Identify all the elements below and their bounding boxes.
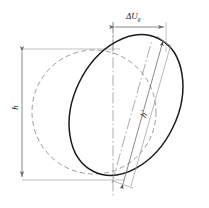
label-delta-u-symbol: ΔU <box>126 11 138 21</box>
dimension-h-prime-line-b <box>131 44 171 186</box>
dimension-h-prime-witness-b <box>157 36 171 47</box>
deformed-ellipse <box>47 16 205 195</box>
dimension-h-prime-witness-a <box>113 181 133 188</box>
technical-drawing <box>0 0 209 208</box>
figure-canvas: h ΔUg h′ <box>0 0 209 208</box>
label-h: h <box>11 105 20 110</box>
label-delta-u-subscript: g <box>138 16 141 22</box>
label-delta-u: ΔUg <box>126 12 141 22</box>
guide-lines <box>22 22 166 180</box>
original-circle <box>32 50 156 174</box>
